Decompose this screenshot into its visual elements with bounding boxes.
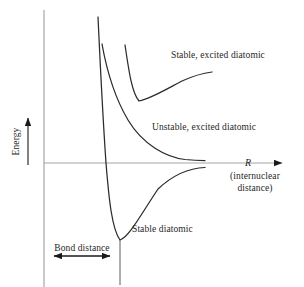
curve-label-stable-excited-diatomic: Stable, excited diatomic <box>171 50 265 61</box>
diagram-canvas <box>0 0 304 287</box>
curve-unstable-excited-diatomic <box>102 44 205 161</box>
curve-label-stable-diatomic: Stable diatomic <box>132 224 193 235</box>
bond-distance-label: Bond distance <box>52 243 112 255</box>
y-axis-label: Energy <box>11 117 22 167</box>
x-axis-sublabel: (internuclear distance) <box>213 171 297 194</box>
curve-label-unstable-excited-diatomic: Unstable, excited diatomic <box>152 122 256 133</box>
x-axis-label: R <box>245 157 251 168</box>
potential-energy-diagram: Stable, excited diatomic Unstable, excit… <box>0 0 304 287</box>
